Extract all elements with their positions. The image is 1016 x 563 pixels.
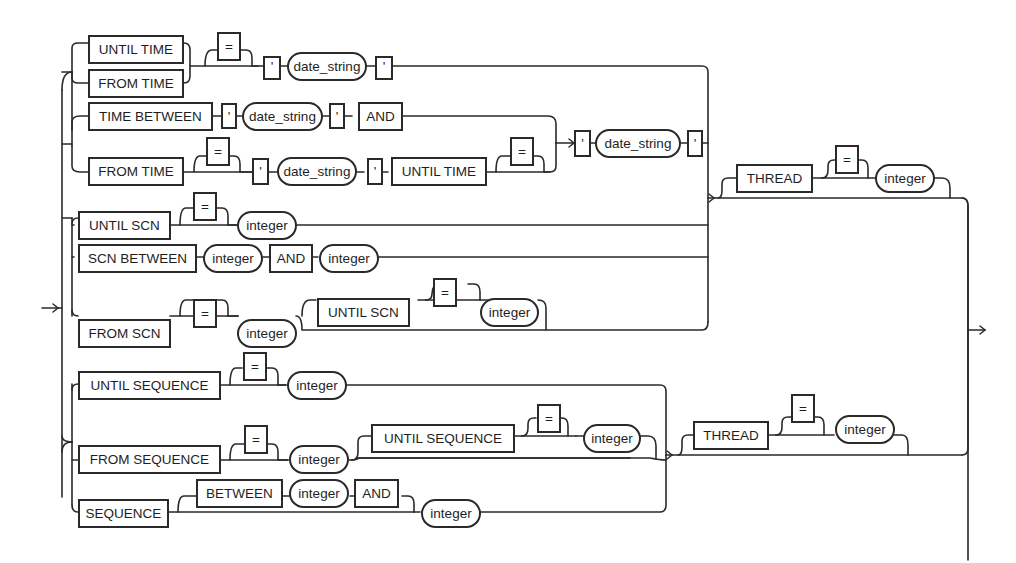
svg-text:date_string: date_string xyxy=(249,109,316,124)
node-quote: ' xyxy=(222,104,236,128)
node-date-string: date_string xyxy=(596,130,680,157)
svg-text:AND: AND xyxy=(362,486,391,501)
svg-text:=: = xyxy=(252,432,260,447)
node-equals: = xyxy=(434,279,456,306)
svg-text:UNTIL SEQUENCE: UNTIL SEQUENCE xyxy=(384,431,502,446)
node-quote: ' xyxy=(688,131,702,156)
node-until-scn: UNTIL SCN xyxy=(79,212,170,239)
node-integer: integer xyxy=(481,299,538,326)
node-scn-between: SCN BETWEEN xyxy=(79,245,196,272)
node-integer: integer xyxy=(204,245,262,272)
svg-text:': ' xyxy=(228,109,231,124)
svg-text:': ' xyxy=(581,136,584,151)
svg-text:=: = xyxy=(799,401,807,416)
svg-text:AND: AND xyxy=(366,109,395,124)
node-from-time: FROM TIME xyxy=(89,158,183,185)
svg-text:UNTIL TIME: UNTIL TIME xyxy=(99,42,173,57)
svg-text:integer: integer xyxy=(884,171,926,186)
node-and: AND xyxy=(270,245,312,272)
svg-text:': ' xyxy=(374,164,377,179)
node-equals: = xyxy=(194,193,216,220)
svg-text:AND: AND xyxy=(277,251,306,266)
svg-text:': ' xyxy=(271,59,274,74)
node-equals: = xyxy=(245,426,267,453)
node-thread: THREAD xyxy=(737,165,812,192)
svg-text:=: = xyxy=(201,199,209,214)
svg-text:date_string: date_string xyxy=(284,164,351,179)
node-integer: integer xyxy=(290,446,348,473)
svg-text:UNTIL SEQUENCE: UNTIL SEQUENCE xyxy=(90,378,208,393)
svg-text:FROM TIME: FROM TIME xyxy=(98,76,174,91)
svg-text:integer: integer xyxy=(296,378,338,393)
node-until-sequence: UNTIL SEQUENCE xyxy=(372,425,514,452)
node-integer: integer xyxy=(422,500,480,527)
node-integer: integer xyxy=(876,165,934,192)
svg-text:integer: integer xyxy=(328,251,370,266)
node-and: AND xyxy=(355,480,398,507)
svg-text:=: = xyxy=(545,411,553,426)
node-equals: = xyxy=(207,138,229,165)
svg-text:': ' xyxy=(694,136,697,151)
svg-text:UNTIL SCN: UNTIL SCN xyxy=(328,305,399,320)
node-until-scn: UNTIL SCN xyxy=(318,299,409,326)
svg-text:=: = xyxy=(214,144,222,159)
node-from-scn: FROM SCN xyxy=(79,320,170,347)
svg-text:integer: integer xyxy=(489,305,531,320)
svg-text:=: = xyxy=(251,359,259,374)
svg-text:FROM SEQUENCE: FROM SEQUENCE xyxy=(90,452,209,467)
node-quote: ' xyxy=(376,57,392,79)
node-integer: integer xyxy=(238,212,296,239)
node-quote: ' xyxy=(575,131,590,156)
node-until-time: UNTIL TIME xyxy=(89,36,183,63)
svg-text:SCN BETWEEN: SCN BETWEEN xyxy=(88,251,187,266)
node-equals: = xyxy=(218,33,240,60)
node-from-sequence: FROM SEQUENCE xyxy=(79,446,220,473)
node-equals: = xyxy=(511,138,533,165)
node-date-string: date_string xyxy=(288,53,366,80)
node-until-sequence: UNTIL SEQUENCE xyxy=(79,372,220,399)
svg-text:integer: integer xyxy=(298,486,340,501)
svg-text:BETWEEN: BETWEEN xyxy=(206,486,273,501)
svg-text:SEQUENCE: SEQUENCE xyxy=(86,506,162,521)
svg-text:date_string: date_string xyxy=(294,59,361,74)
svg-text:integer: integer xyxy=(246,326,288,341)
svg-text:TIME BETWEEN: TIME BETWEEN xyxy=(99,109,202,124)
node-quote: ' xyxy=(264,57,280,79)
svg-text:=: = xyxy=(441,285,449,300)
svg-text:UNTIL TIME: UNTIL TIME xyxy=(402,164,476,179)
svg-text:=: = xyxy=(201,306,209,321)
node-quote: ' xyxy=(330,104,344,128)
node-integer: integer xyxy=(584,425,640,452)
node-integer: integer xyxy=(238,320,296,347)
node-from-time: FROM TIME xyxy=(89,70,183,97)
node-quote: ' xyxy=(253,159,268,184)
svg-text:=: = xyxy=(225,39,233,54)
svg-text:integer: integer xyxy=(844,422,886,437)
svg-text:THREAD: THREAD xyxy=(703,428,759,443)
node-equals: = xyxy=(792,395,814,422)
node-equals: = xyxy=(244,353,266,380)
node-equals: = xyxy=(836,146,858,173)
svg-text:': ' xyxy=(259,164,262,179)
svg-text:date_string: date_string xyxy=(605,136,672,151)
svg-text:': ' xyxy=(383,59,386,74)
svg-text:=: = xyxy=(518,144,526,159)
svg-text:integer: integer xyxy=(298,452,340,467)
svg-text:integer: integer xyxy=(212,251,254,266)
node-until-time: UNTIL TIME xyxy=(392,158,486,185)
node-sequence: SEQUENCE xyxy=(79,500,168,527)
node-equals: = xyxy=(538,405,560,432)
node-integer: integer xyxy=(290,480,348,507)
railroad-diagram: UNTIL TIME FROM TIME = ' date_string ' T… xyxy=(0,0,1016,563)
svg-text:FROM TIME: FROM TIME xyxy=(98,164,174,179)
svg-text:integer: integer xyxy=(246,218,288,233)
svg-text:=: = xyxy=(843,152,851,167)
node-and: AND xyxy=(359,103,402,130)
node-between: BETWEEN xyxy=(197,480,282,507)
svg-text:': ' xyxy=(336,109,339,124)
node-time-between: TIME BETWEEN xyxy=(89,103,212,130)
node-integer: integer xyxy=(288,372,346,399)
node-date-string: date_string xyxy=(278,158,356,185)
node-integer: integer xyxy=(320,245,378,272)
node-equals: = xyxy=(194,300,216,327)
